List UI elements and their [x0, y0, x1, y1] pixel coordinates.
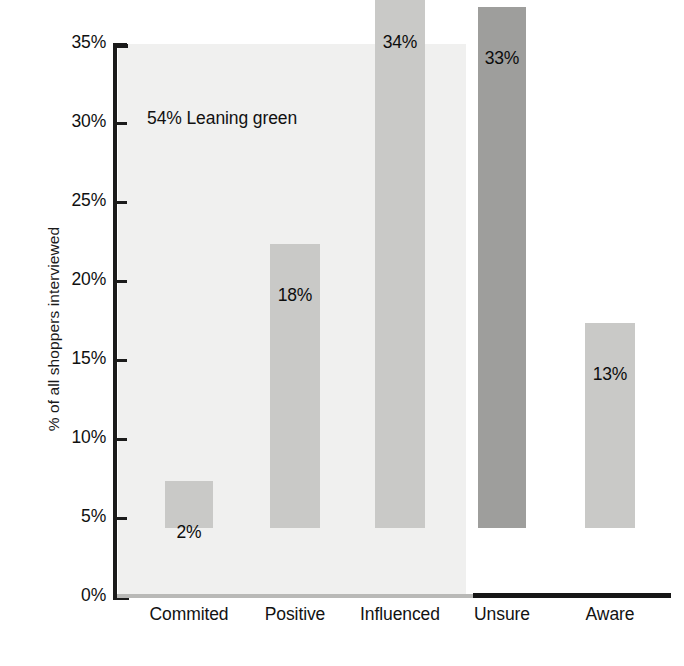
bars-layer — [0, 0, 684, 597]
bar-value-label: 34% — [360, 32, 440, 53]
x-axis-label-aware: Aware — [540, 604, 680, 625]
bar-value-label: 33% — [462, 48, 542, 69]
bar-unsure[interactable] — [478, 7, 526, 528]
bar-chart-figure: % of all shoppers interviewed 35%30%25%2… — [0, 0, 684, 666]
leaning-green-annotation: 54% Leaning green — [147, 108, 297, 129]
bar-value-label: 2% — [149, 522, 229, 543]
bar-influenced[interactable] — [375, 0, 425, 528]
bar-aware[interactable] — [585, 323, 635, 528]
bar-value-label: 13% — [570, 364, 650, 385]
bar-value-label: 18% — [255, 285, 335, 306]
